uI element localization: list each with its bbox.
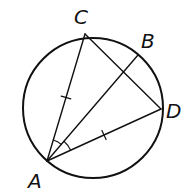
label-b: B: [141, 29, 155, 53]
label-a: A: [26, 169, 42, 190]
angle-marks: [53, 140, 70, 150]
angle-arc: [53, 140, 61, 144]
label-c: C: [74, 5, 88, 29]
label-d: D: [166, 99, 181, 123]
segment-ab: [47, 55, 138, 161]
angle-arc: [64, 141, 71, 150]
geometry-figure: A B C D: [0, 0, 181, 190]
